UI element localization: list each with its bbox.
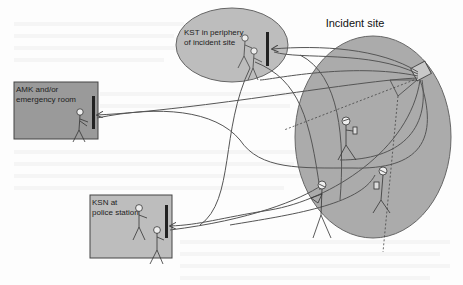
kst-label-line2: of incident site: [184, 38, 236, 47]
incident-site-node: Incident site: [295, 17, 451, 238]
amk-label-line1: AMK and/or: [16, 85, 59, 94]
ksn-label-line2: police station: [92, 208, 139, 217]
kst-label-line1: KST in periphery: [184, 28, 243, 37]
ksn-label-line1: KSN at: [92, 198, 118, 207]
ksn-wall-bar: [165, 205, 168, 238]
amk-wall-bar: [92, 96, 95, 129]
incident-site-title: Incident site: [326, 17, 385, 29]
diagram-canvas: Incident site KST in periphery of incide…: [0, 0, 463, 285]
kst-wall-bar: [266, 32, 269, 66]
amk-label-line2: emergency room: [16, 95, 76, 104]
amk-node: AMK and/or emergency room: [14, 82, 98, 142]
ksn-node: KSN at police station: [90, 195, 172, 264]
